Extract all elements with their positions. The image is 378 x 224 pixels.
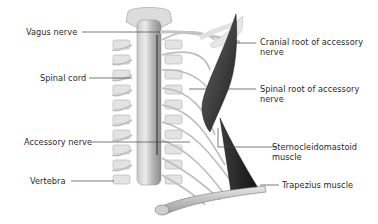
label-spinal-root: Spinal root of accessory nerve [260, 84, 359, 104]
label-spinal-cord: Spinal cord [40, 73, 86, 83]
anatomy-diagram: Vagus nerve Spinal cord Accessory nerve … [0, 0, 378, 224]
label-spinal-root-line1: Spinal root of accessory [260, 84, 359, 94]
label-cranial-root-line2: nerve [260, 47, 363, 57]
label-cranial-root-line1: Cranial root of accessory [260, 37, 363, 47]
label-sternocleidomastoid: Sternocleidomastoid muscle [272, 142, 357, 162]
label-scm-line1: Sternocleidomastoid [272, 142, 357, 152]
label-vagus-nerve: Vagus nerve [26, 27, 77, 37]
label-vertebra: Vertebra [30, 176, 66, 186]
clavicle [158, 186, 266, 215]
vertebrae-right [165, 40, 182, 184]
label-scm-line2: muscle [272, 152, 357, 162]
label-cranial-root: Cranial root of accessory nerve [260, 37, 363, 57]
label-accessory-nerve: Accessory nerve [24, 137, 92, 147]
trapezius-muscle [220, 118, 258, 192]
label-trapezius: Trapezius muscle [282, 180, 353, 190]
label-spinal-root-line2: nerve [260, 94, 359, 104]
